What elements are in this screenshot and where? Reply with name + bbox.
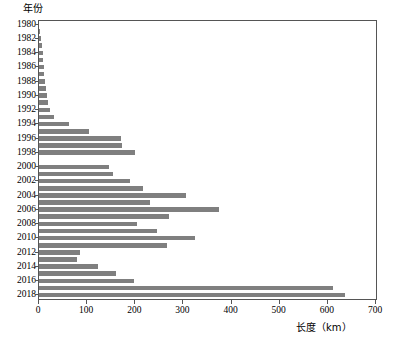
y-tick-label-2018: 2018: [2, 289, 36, 299]
x-tick-mark: [38, 300, 39, 304]
bar-row: [39, 121, 376, 128]
y-tick-label-1986: 1986: [2, 61, 36, 71]
bar-1987: [39, 72, 44, 77]
y-tick-label-1990: 1990: [2, 90, 36, 100]
bar-chart: 年份 1980198219841986198819901992199419961…: [0, 0, 393, 341]
y-tick-mark: [35, 38, 38, 39]
y-tick-mark: [35, 252, 38, 253]
bar-1996: [39, 136, 121, 141]
bar-2005: [39, 200, 150, 205]
bar-2003: [39, 186, 143, 191]
x-tick-mark: [86, 300, 87, 304]
bar-row: [39, 114, 376, 121]
bar-row: [39, 171, 376, 178]
y-axis-title: 年份: [23, 3, 43, 15]
y-tick-mark: [35, 95, 38, 96]
bar-row: [39, 235, 376, 242]
y-tick-label-1982: 1982: [2, 33, 36, 43]
y-tick-label-2000: 2000: [2, 161, 36, 171]
bars-layer: [39, 21, 376, 299]
bar-row: [39, 178, 376, 185]
bar-row: [39, 57, 376, 64]
bar-2000: [39, 165, 109, 170]
bar-2007: [39, 214, 169, 219]
y-tick-mark: [35, 209, 38, 210]
bar-1981: [39, 29, 40, 34]
bar-2011: [39, 243, 167, 248]
bar-row: [39, 206, 376, 213]
y-tick-mark: [35, 109, 38, 110]
y-tick-mark: [35, 294, 38, 295]
bar-1997: [39, 143, 122, 148]
bar-1988: [39, 79, 45, 84]
bar-row: [39, 185, 376, 192]
bar-2016: [39, 279, 134, 284]
bar-1992: [39, 108, 50, 113]
y-tick-mark: [35, 237, 38, 238]
bar-row: [39, 192, 376, 199]
bar-row: [39, 42, 376, 49]
bar-1994: [39, 122, 69, 127]
y-tick-label-1996: 1996: [2, 133, 36, 143]
bar-1995: [39, 129, 89, 134]
bar-1993: [39, 115, 54, 120]
y-tick-label-2002: 2002: [2, 175, 36, 185]
bar-1983: [39, 43, 42, 48]
bar-1989: [39, 86, 46, 91]
bar-2002: [39, 179, 130, 184]
bar-2008: [39, 222, 137, 227]
y-tick-mark: [35, 266, 38, 267]
y-tick-label-1984: 1984: [2, 47, 36, 57]
bar-2010: [39, 236, 195, 241]
bar-row: [39, 242, 376, 249]
y-tick-label-1994: 1994: [2, 118, 36, 128]
y-tick-mark: [35, 152, 38, 153]
bar-row: [39, 142, 376, 149]
x-tick-label-500: 500: [259, 305, 299, 316]
x-tick-mark: [375, 300, 376, 304]
bar-1982: [39, 36, 41, 41]
x-tick-label-200: 200: [114, 305, 154, 316]
bar-2012: [39, 250, 80, 255]
bar-row: [39, 249, 376, 256]
bar-row: [39, 107, 376, 114]
bar-1991: [39, 100, 48, 105]
y-tick-mark: [35, 180, 38, 181]
bar-row: [39, 28, 376, 35]
x-tick-label-400: 400: [211, 305, 251, 316]
y-tick-mark: [35, 195, 38, 196]
y-axis-tick-labels: 1980198219841986198819901992199419961998…: [0, 20, 36, 300]
y-tick-mark: [35, 52, 38, 53]
y-tick-label-2016: 2016: [2, 275, 36, 285]
y-tick-mark: [35, 123, 38, 124]
x-tick-mark: [182, 300, 183, 304]
x-tick-label-600: 600: [307, 305, 347, 316]
bar-row: [39, 292, 376, 299]
bar-row: [39, 149, 376, 156]
bar-1984: [39, 51, 43, 56]
x-tick-label-0: 0: [18, 305, 58, 316]
y-tick-label-2006: 2006: [2, 204, 36, 214]
bar-1990: [39, 93, 47, 98]
bar-2009: [39, 229, 157, 234]
bar-2014: [39, 264, 98, 269]
y-tick-mark: [35, 24, 38, 25]
bar-2013: [39, 257, 77, 262]
bar-row: [39, 135, 376, 142]
bar-row: [39, 64, 376, 71]
bar-row: [39, 285, 376, 292]
bar-row: [39, 78, 376, 85]
bar-row: [39, 221, 376, 228]
y-tick-label-1980: 1980: [2, 19, 36, 29]
bar-row: [39, 35, 376, 42]
bar-row: [39, 256, 376, 263]
y-tick-label-2010: 2010: [2, 232, 36, 242]
x-axis-title: 长度（km）: [296, 322, 352, 334]
x-tick-mark: [231, 300, 232, 304]
bar-2001: [39, 172, 113, 177]
bar-row: [39, 71, 376, 78]
y-tick-mark: [35, 280, 38, 281]
y-tick-label-2008: 2008: [2, 218, 36, 228]
y-tick-label-2014: 2014: [2, 261, 36, 271]
bar-row: [39, 50, 376, 57]
